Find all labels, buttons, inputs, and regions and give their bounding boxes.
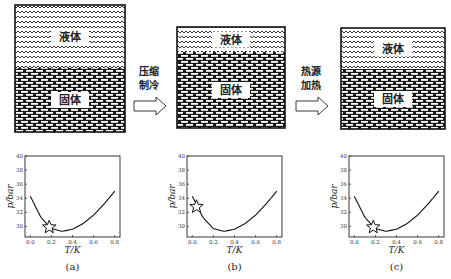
x-tick-label: 0.8	[272, 239, 281, 245]
right-arrow-icon	[134, 97, 166, 115]
solid-label: 固体	[382, 92, 405, 106]
solid-label: 固体	[59, 93, 82, 107]
x-tick-label: 0.0	[26, 239, 35, 245]
y-tick-label: 34	[340, 195, 347, 201]
x-tick-label: 0.0	[188, 239, 197, 245]
x-tick-label: 0.6	[251, 239, 260, 245]
y-tick-label: 32	[340, 209, 347, 215]
x-tick-label: 0.2	[47, 239, 56, 245]
x-tick-label: 0.2	[209, 239, 218, 245]
panel-c: 液体固体3032343638400.00.20.40.60.8T/Kp/bar(…	[329, 28, 445, 272]
liquid-label: 液体	[382, 42, 405, 56]
y-tick-label: 38	[16, 167, 23, 173]
phase-plot: 3032343638400.00.20.40.60.8T/Kp/bar(a)	[5, 153, 120, 272]
panel-caption: (a)	[66, 261, 80, 272]
arrow-label-line1: 热源	[301, 65, 321, 77]
y-tick-label: 34	[178, 195, 185, 201]
y-tick-label: 36	[178, 181, 185, 187]
y-tick-label: 40	[340, 153, 347, 159]
x-tick-label: 0.6	[89, 239, 98, 245]
plot-frame	[187, 156, 282, 237]
y-tick-label: 30	[178, 223, 185, 229]
container-diagram: 液体固体	[341, 28, 445, 129]
panel-caption: (c)	[390, 261, 404, 272]
x-tick-label: 0.6	[413, 239, 422, 245]
plot-frame	[25, 156, 120, 237]
process-arrow: 压缩制冷	[134, 65, 166, 115]
x-axis-label: T/K	[65, 245, 82, 255]
liquid-label: 液体	[59, 30, 82, 44]
x-axis-label: T/K	[227, 245, 244, 255]
arrow-label-line1: 压缩	[139, 65, 159, 77]
x-tick-label: 0.2	[371, 239, 380, 245]
panel-a: 液体固体3032343638400.00.20.40.60.8T/Kp/bar(…	[5, 5, 125, 272]
x-tick-label: 0.8	[110, 239, 119, 245]
x-axis-label: T/K	[389, 245, 406, 255]
y-tick-label: 38	[340, 167, 347, 173]
y-axis-label: p/bar	[329, 184, 339, 209]
right-arrow-icon	[296, 97, 328, 115]
melting-curve	[192, 191, 276, 231]
y-tick-label: 32	[178, 209, 185, 215]
y-axis-label: p/bar	[167, 184, 177, 209]
y-tick-label: 30	[340, 223, 347, 229]
panel-caption: (b)	[227, 261, 241, 272]
arrow-label-line2: 制冷	[139, 79, 159, 91]
y-tick-label: 40	[16, 153, 23, 159]
y-tick-label: 38	[178, 167, 185, 173]
y-tick-label: 30	[16, 223, 23, 229]
container-diagram: 液体固体	[15, 5, 125, 132]
figure-canvas: 液体固体3032343638400.00.20.40.60.8T/Kp/bar(…	[0, 0, 451, 279]
y-tick-label: 32	[16, 209, 23, 215]
panel-b: 液体固体3032343638400.00.20.40.60.8T/Kp/bar(…	[167, 27, 285, 272]
y-tick-label: 40	[178, 153, 185, 159]
x-tick-label: 0.0	[350, 239, 359, 245]
phase-plot: 3032343638400.00.20.40.60.8T/Kp/bar(b)	[167, 153, 282, 272]
y-axis-label: p/bar	[5, 184, 15, 209]
solid-label: 固体	[220, 83, 243, 97]
phase-plot: 3032343638400.00.20.40.60.8T/Kp/bar(c)	[329, 153, 444, 272]
y-tick-label: 36	[340, 181, 347, 187]
x-tick-label: 0.8	[434, 239, 443, 245]
y-tick-label: 36	[16, 181, 23, 187]
star-marker-icon	[190, 200, 203, 213]
liquid-label: 液体	[220, 33, 243, 47]
plot-frame	[349, 156, 444, 237]
process-arrow: 热源加热	[296, 65, 328, 115]
container-diagram: 液体固体	[177, 27, 285, 128]
y-tick-label: 34	[16, 195, 23, 201]
arrow-label-line2: 加热	[300, 79, 321, 91]
